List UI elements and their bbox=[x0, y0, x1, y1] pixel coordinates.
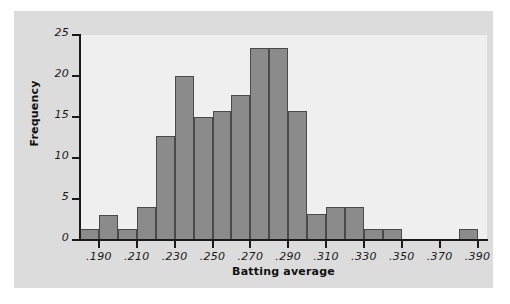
x-axis-tick-label: .190 bbox=[86, 250, 112, 263]
x-axis-tick: .190 bbox=[98, 241, 100, 248]
histogram-bar bbox=[326, 207, 345, 240]
y-axis-line bbox=[79, 34, 81, 241]
y-axis-tick: 0 bbox=[72, 239, 79, 241]
histogram-bar bbox=[156, 136, 175, 240]
x-axis-tick-label: .290 bbox=[275, 250, 301, 263]
y-axis-tick: 10 bbox=[72, 157, 79, 159]
x-axis-tick: .210 bbox=[136, 241, 138, 248]
x-axis-tick: .310 bbox=[325, 241, 327, 248]
x-axis-tick-label: .330 bbox=[351, 250, 377, 263]
x-axis-tick: .390 bbox=[477, 241, 479, 248]
y-axis-tick: 20 bbox=[72, 75, 79, 77]
x-axis-line bbox=[79, 239, 488, 241]
figure-panel: 0510152025 .190.210.230.250.270.290.310.… bbox=[14, 11, 493, 288]
x-axis-tick: .250 bbox=[212, 241, 214, 248]
x-axis-tick-label: .270 bbox=[238, 250, 264, 263]
x-axis-tick: .290 bbox=[287, 241, 289, 248]
x-axis-tick-label: .310 bbox=[313, 250, 339, 263]
x-axis-title: Batting average bbox=[80, 265, 487, 278]
x-axis-tick-label: .390 bbox=[465, 250, 491, 263]
histogram-bar bbox=[231, 95, 250, 240]
y-axis-tick-label: 10 bbox=[54, 149, 69, 162]
histogram-bar bbox=[137, 207, 156, 240]
histogram-bar bbox=[250, 48, 269, 240]
x-axis-tick-label: .250 bbox=[200, 250, 226, 263]
y-axis-tick: 15 bbox=[72, 116, 79, 118]
x-axis-tick: .350 bbox=[401, 241, 403, 248]
histogram-bar bbox=[194, 117, 213, 240]
x-axis-tick: .330 bbox=[363, 241, 365, 248]
y-axis-tick-label: 5 bbox=[62, 190, 69, 203]
x-axis-tick-label: .350 bbox=[389, 250, 415, 263]
y-axis-tick-label: 20 bbox=[54, 67, 69, 80]
x-axis-tick-label: .370 bbox=[427, 250, 453, 263]
histogram-bar bbox=[175, 76, 194, 240]
histogram-bar bbox=[99, 215, 118, 240]
x-axis-tick: .270 bbox=[249, 241, 251, 248]
y-axis-tick-label: 15 bbox=[54, 108, 69, 121]
x-axis-tick-label: .230 bbox=[162, 250, 188, 263]
x-axis-tick: .230 bbox=[174, 241, 176, 248]
histogram-bar bbox=[288, 111, 307, 240]
histogram-bar bbox=[307, 214, 326, 240]
y-axis-title: Frequency bbox=[28, 59, 41, 169]
x-axis-tick-label: .210 bbox=[124, 250, 150, 263]
x-axis-tick: .370 bbox=[439, 241, 441, 248]
y-axis-tick: 5 bbox=[72, 198, 79, 200]
y-axis-tick-label: 25 bbox=[54, 26, 69, 39]
histogram-bar bbox=[213, 111, 232, 240]
y-axis-tick-label: 0 bbox=[62, 231, 69, 244]
histogram-bar bbox=[269, 48, 288, 240]
y-axis-tick: 25 bbox=[72, 34, 79, 36]
histogram-bar bbox=[345, 207, 364, 240]
